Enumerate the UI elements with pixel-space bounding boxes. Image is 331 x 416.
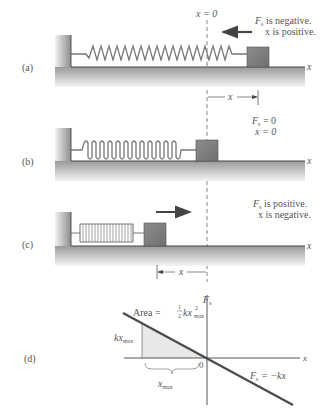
panel-c-label: (c) (22, 239, 33, 251)
area-formula: Area = (133, 307, 161, 318)
panel-a-label: (a) (22, 62, 33, 74)
area-frac-den: 2 (178, 313, 181, 319)
area-sup: 2 (195, 305, 198, 311)
origin-label: x = 0 (195, 8, 217, 19)
panel-b: (b) x Fs = 0 x = 0 (22, 115, 312, 181)
axis-x-label: x (306, 155, 312, 166)
x-axis-label: x (302, 353, 307, 363)
position-annotation: x = 0 (254, 126, 276, 137)
position-annotation: x is negative. (258, 209, 311, 220)
position-annotation: x is positive. (265, 26, 316, 37)
area-kx: kx (183, 307, 192, 318)
spring-stretched (71, 46, 247, 60)
block (144, 223, 166, 246)
spring-compressed (71, 224, 144, 242)
block (196, 140, 218, 161)
floor (55, 67, 305, 87)
axis-x-label: x (306, 240, 312, 251)
axis-x-label: x (306, 61, 312, 72)
y-axis-label: Fs (202, 294, 212, 306)
line-equation: Fs = −kx (249, 370, 286, 382)
origin-label: 0 (199, 360, 204, 370)
panel-c: (c) x Fs is positive. x is negative. x (22, 198, 312, 279)
spring-relaxed (71, 141, 196, 159)
spring-force-figure: (a) x = 0 x Fs is negative. x is positiv… (0, 0, 331, 416)
displacement-label: x (227, 91, 233, 102)
panel-d: (d) Fs x 0 Area = 1 2 kx 2 max kxmax xma… (24, 294, 307, 405)
xmax-brace (145, 363, 199, 374)
panel-a: (a) x = 0 x Fs is negative. x is positiv… (22, 8, 316, 105)
panel-b-label: (b) (22, 156, 34, 168)
kxmax-label: kxmax (114, 332, 133, 344)
force-line (123, 313, 293, 405)
floor (55, 161, 305, 181)
floor (55, 246, 305, 266)
panel-d-label: (d) (24, 353, 36, 365)
area-sub: max (194, 313, 204, 319)
xmax-label: xmax (157, 378, 173, 390)
area-frac-num: 1 (178, 304, 181, 310)
displacement-label: x (178, 266, 184, 277)
block (247, 47, 269, 67)
